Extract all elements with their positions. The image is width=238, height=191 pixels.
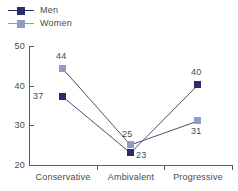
data-point-men-ambivalent — [127, 149, 134, 156]
value-label-women-ambivalent: 25 — [122, 130, 132, 139]
value-label-men-ambivalent: 23 — [136, 151, 146, 160]
value-label-women-conservative: 44 — [56, 52, 66, 61]
data-point-women-ambivalent — [127, 141, 134, 148]
data-point-men-conservative — [59, 93, 66, 100]
value-label-women-progressive: 31 — [191, 127, 201, 136]
value-label-men-progressive: 40 — [191, 68, 201, 77]
data-point-men-progressive — [194, 81, 201, 88]
line-chart: Men Women 50 40 30 20 Conservative Ambiv… — [0, 0, 238, 191]
data-point-women-conservative — [59, 65, 66, 72]
data-point-women-progressive — [194, 117, 201, 124]
value-label-men-conservative: 37 — [33, 92, 43, 101]
